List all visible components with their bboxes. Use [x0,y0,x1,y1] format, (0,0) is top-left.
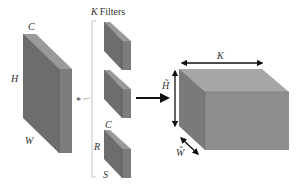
filters-heading: KFilters [90,6,125,17]
filter-cube-3 [104,130,131,178]
input-side-face [59,69,72,153]
filter-cube-1 [104,22,131,70]
operator-connector [83,98,90,99]
output-front-face [205,92,289,150]
filters-bracket [92,21,96,177]
output-width-label: W̃ [176,146,186,158]
output-depth-label: K [216,50,225,61]
filter-cube-2 [104,70,131,118]
output-tensor-box [179,69,289,150]
filter-cols-label: S [103,169,108,180]
output-height-label: H̃ [161,79,170,91]
convolution-operator: * [76,95,81,106]
filter-channels-label: C [105,119,112,130]
input-height-label: H [10,73,19,84]
input-channels-label: C [28,21,35,32]
input-width-label: W [25,135,35,146]
convolution-diagram: C H W * KFilters C R S [0,0,299,184]
filter-rows-label: R [93,141,100,152]
